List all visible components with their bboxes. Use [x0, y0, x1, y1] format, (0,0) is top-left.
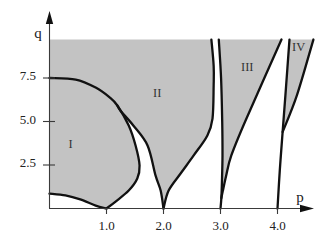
region-label-i: I: [69, 137, 73, 151]
region-label-iii: III: [241, 60, 254, 74]
boundary-curve-iv-left: [278, 40, 290, 209]
y-tick-label: 2.5: [20, 155, 36, 170]
x-tick-label: 1.0: [98, 218, 114, 233]
x-tick-label: 3.0: [212, 218, 228, 233]
y-axis-label: q: [34, 25, 42, 41]
x-tick-label: 4.0: [269, 218, 285, 233]
y-axis-arrow-icon: [46, 11, 53, 24]
x-axis-arrow-icon: [300, 205, 314, 212]
x-axis-label: p: [296, 189, 304, 205]
region-label-ii: II: [153, 86, 161, 100]
y-tick-label: 5.0: [20, 112, 36, 127]
shaded-regions: [50, 40, 314, 209]
y-tick-label: 7.5: [20, 68, 36, 83]
x-tick-label: 2.0: [155, 218, 171, 233]
stability-chart: 1.02.03.04.02.55.07.5 p q IIIIIIIV: [0, 0, 329, 242]
region-label-iv: IV: [292, 40, 305, 54]
